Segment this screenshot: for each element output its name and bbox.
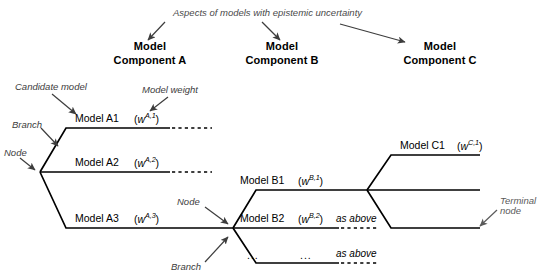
annotation-model-weight: Model weight	[142, 85, 198, 95]
annotation-node-left: Node	[4, 148, 27, 158]
branch-weight-b1: (wB,1)	[298, 174, 323, 186]
header-component-a: Model Component A	[105, 41, 195, 66]
branch-weight-a3-sup: A,3	[145, 211, 156, 220]
annotation-terminal-node-line2: node	[500, 205, 521, 216]
arrow-caption-to-component-b	[262, 22, 280, 40]
branch-weight-b2-base: w	[302, 213, 310, 225]
branch-label-a1: Model A1	[75, 113, 119, 124]
branch-weight-a1-base: w	[138, 113, 146, 125]
header-component-c-line2: Component C	[395, 55, 485, 66]
annotation-candidate-model: Candidate model	[15, 82, 87, 92]
branch-weight-b1-sup: B,1	[309, 173, 320, 182]
annotation-node-mid: Node	[177, 197, 200, 207]
branch-weight-c1-base: w	[461, 140, 469, 152]
branch-c3-line	[367, 190, 480, 228]
branch-weight-a2: (wA,2)	[134, 156, 159, 168]
branch-weight-a1-sup: A,1	[145, 111, 156, 120]
arrow-candidate-model	[52, 94, 76, 114]
annotation-branch-mid: Branch	[171, 262, 201, 272]
header-component-b: Model Component B	[237, 41, 327, 66]
header-component-a-line1: Model	[134, 40, 166, 52]
branch-weight-c1-sup: C,1	[468, 138, 479, 147]
branch-weight-b2: (wB,2)	[298, 212, 323, 224]
header-component-c-line1: Model	[424, 40, 456, 52]
header-component-b-line2: Component B	[237, 55, 327, 66]
header-component-b-line1: Model	[266, 40, 298, 52]
arrow-terminal-node	[480, 210, 497, 226]
branch-note-bdots: as above	[336, 249, 377, 259]
figure-top-caption: Aspects of models with epistemic uncerta…	[173, 8, 362, 18]
branch-label-b2: Model B2	[240, 213, 284, 224]
arrow-node-left	[20, 158, 35, 170]
arrow-model-weight	[150, 97, 168, 111]
branch-weight-a2-base: w	[138, 157, 146, 169]
arrow-node-mid	[205, 207, 228, 224]
annotation-branch-left: Branch	[12, 120, 42, 130]
branch-label-bdots: ...	[247, 250, 259, 261]
arrow-caption-to-component-c	[340, 24, 405, 42]
figure-canvas: Aspects of models with epistemic uncerta…	[0, 0, 540, 279]
header-component-c: Model Component C	[395, 41, 485, 66]
branch-label-a2: Model A2	[75, 157, 119, 168]
branch-a1-line	[40, 128, 212, 172]
annotation-terminal-node: Terminal node	[500, 196, 536, 215]
branch-weight-c1: (wC,1)	[457, 139, 482, 151]
branch-weight-bdots: ...	[300, 250, 312, 261]
branch-weight-a1: (wA,1)	[134, 112, 159, 124]
branch-weight-b2-sup: B,2	[309, 211, 320, 220]
branch-label-b1: Model B1	[240, 175, 284, 186]
branch-weight-a2-sup: A,2	[145, 155, 156, 164]
branch-weight-a3-base: w	[138, 213, 146, 225]
branch-label-a3: Model A3	[75, 213, 119, 224]
branch-weight-a3: (wA,3)	[134, 212, 159, 224]
arrow-caption-to-component-a	[148, 22, 165, 40]
branch-label-c1: Model C1	[400, 140, 445, 151]
branch-note-b2: as above	[336, 214, 377, 224]
arrow-branch-mid	[205, 237, 228, 262]
branch-weight-b1-base: w	[302, 175, 310, 187]
arrow-branch-left	[41, 128, 58, 146]
branch-c1-line	[367, 155, 480, 190]
header-component-a-line2: Component A	[105, 55, 195, 66]
